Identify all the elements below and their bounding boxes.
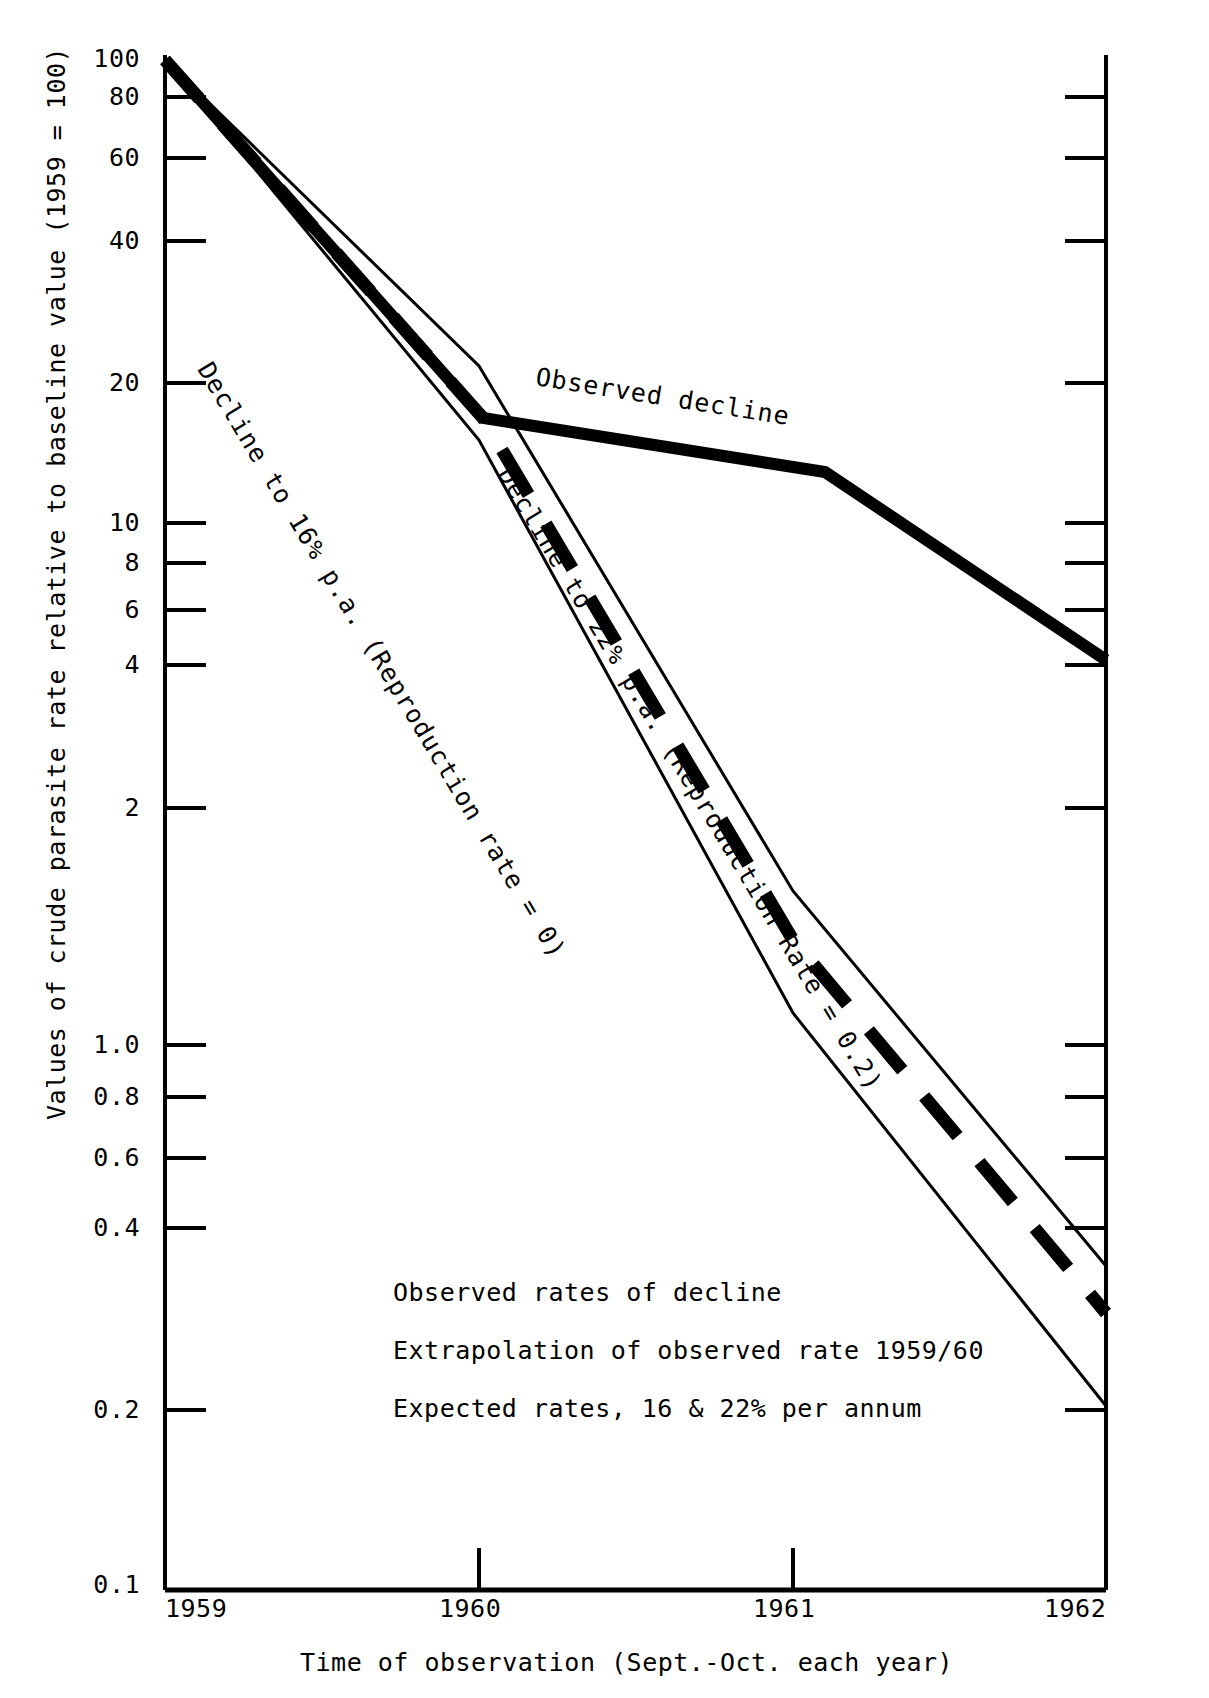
x-tick-label: 1959 xyxy=(165,1594,227,1623)
x-tick-label: 1961 xyxy=(753,1594,815,1623)
y-axis-title: Values of crude parasite rate relative t… xyxy=(42,47,71,1120)
chart-svg xyxy=(0,0,1209,1698)
y-tick-label: 0.1 xyxy=(0,1570,140,1599)
y-ticks-right xyxy=(1065,97,1106,1410)
y-tick-label: 0.4 xyxy=(0,1213,140,1242)
legend-note: Expected rates, 16 & 22% per annum xyxy=(393,1394,922,1423)
y-tick-label: 0.6 xyxy=(0,1143,140,1172)
x-ticks xyxy=(479,1548,793,1590)
figure-container: 100 80 60 40 20 10 8 6 4 2 1.0 0.8 0.6 0… xyxy=(0,0,1209,1698)
y-tick-label: 0.2 xyxy=(0,1395,140,1424)
series-observed-decline xyxy=(165,60,1106,660)
series-decline-16pct xyxy=(165,60,1106,1406)
legend-note: Observed rates of decline xyxy=(393,1278,782,1307)
x-tick-label: 1962 xyxy=(1044,1594,1106,1623)
x-tick-label: 1960 xyxy=(439,1594,501,1623)
legend-note: Extrapolation of observed rate 1959/60 xyxy=(393,1336,984,1365)
y-ticks-left xyxy=(165,97,206,1410)
x-axis-title: Time of observation (Sept.-Oct. each yea… xyxy=(300,1648,953,1677)
